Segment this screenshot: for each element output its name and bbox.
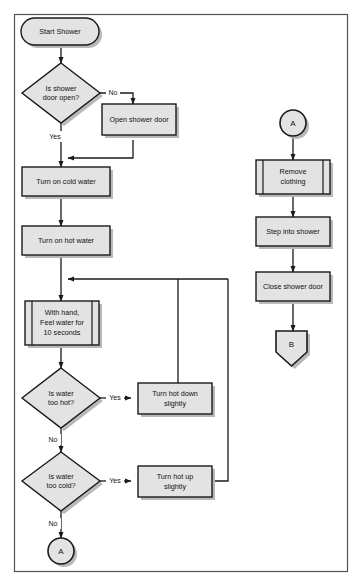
decision-cold-label-1: Is water (48, 472, 74, 481)
node-step-into-shower[interactable]: Step into shower (256, 217, 333, 249)
connector-b-label: B (289, 340, 294, 349)
connector-a-out-label: A (58, 547, 64, 556)
edge-label-cold-yes: Yes (109, 477, 121, 484)
cold-water-label: Turn on cold water (36, 177, 96, 186)
hot-down-label-2: slightly (164, 399, 186, 408)
decision-hot-label-2: too hot? (48, 398, 74, 407)
edge-label-cold-no: No (49, 520, 58, 527)
decision-hot-label-1: Is water (48, 389, 74, 398)
decision-door-label-2: door open? (43, 93, 79, 102)
hot-down-label-1: Turn hot down (152, 389, 198, 398)
node-start-shower[interactable]: Start Shower (21, 18, 102, 48)
node-open-shower-door[interactable]: Open shower door (102, 104, 179, 138)
edge-label-hot-no: No (49, 436, 58, 443)
start-shower-label: Start Shower (39, 27, 81, 36)
edge-label-hot-yes: Yes (109, 394, 121, 401)
flowchart-svg: Start Shower Is shower door open? Open s… (0, 0, 364, 586)
decision-cold-label-2: too cold? (46, 481, 75, 490)
edge-label-door-no: No (109, 89, 118, 96)
node-turn-on-cold-water[interactable]: Turn on cold water (22, 167, 113, 199)
node-turn-on-hot-water[interactable]: Turn on hot water (22, 226, 113, 258)
feel-water-label-3: 10 seconds (44, 328, 81, 337)
node-turn-hot-up[interactable]: Turn hot up slightly (138, 466, 215, 500)
feel-water-label-2: Feel water for (40, 318, 85, 327)
node-turn-hot-down[interactable]: Turn hot down slightly (138, 383, 215, 417)
close-door-label: Close shower door (263, 282, 324, 291)
node-remove-clothing[interactable]: Remove clothing (256, 160, 333, 197)
decision-door-label-1: Is shower (46, 84, 77, 93)
node-feel-water[interactable]: With hand, Feel water for 10 seconds (25, 301, 102, 348)
remove-clothing-label-1: Remove (280, 167, 307, 176)
flowchart-canvas: Start Shower Is shower door open? Open s… (0, 0, 364, 586)
hot-water-label: Turn on hot water (38, 236, 95, 245)
hot-up-label-2: slightly (164, 482, 186, 491)
connector-a-in-label: A (290, 119, 296, 128)
open-door-label: Open shower door (109, 115, 169, 124)
step-into-label: Step into shower (266, 227, 320, 236)
node-close-shower-door[interactable]: Close shower door (256, 272, 333, 304)
feel-water-label-1: With hand, (45, 308, 79, 317)
remove-clothing-label-2: clothing (281, 177, 306, 186)
edge-label-door-yes: Yes (49, 133, 61, 140)
hot-up-label-1: Turn hot up (157, 472, 194, 481)
